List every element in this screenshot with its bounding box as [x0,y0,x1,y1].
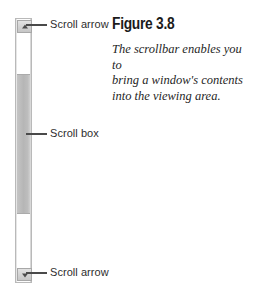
figure-caption-text: The scrollbar enables you to bring a win… [112,42,252,104]
callout-scroll-arrow-top: Scroll arrow [26,18,109,31]
figure-caption-block: Figure 3.8 The scrollbar enables you to … [112,15,252,104]
scroll-box-thumb[interactable] [17,74,30,214]
callout-label-scroll-box: Scroll box [47,127,99,140]
leader-line [26,133,47,135]
vertical-scrollbar[interactable] [15,18,32,283]
leader-line [26,272,47,274]
callout-label-scroll-arrow-bottom: Scroll arrow [47,266,109,279]
callout-scroll-arrow-bottom: Scroll arrow [26,266,109,279]
scrollbar-track[interactable] [17,33,30,268]
callout-label-scroll-arrow-top: Scroll arrow [47,18,109,31]
caption-line: into the viewing area. [112,89,252,105]
caption-line: bring a window's contents [112,73,252,89]
leader-line [26,24,47,26]
figure-page: Scroll arrow Scroll box Scroll arrow Fig… [0,0,259,296]
figure-heading: Figure 3.8 [112,15,232,33]
caption-line: The scrollbar enables you to [112,42,252,73]
callout-scroll-box: Scroll box [26,127,99,140]
